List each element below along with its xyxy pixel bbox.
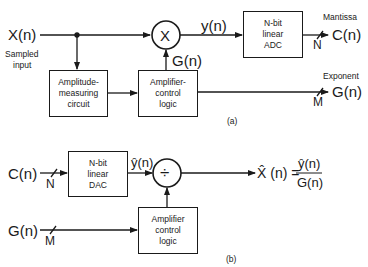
c-input-label: C(n) — [8, 166, 37, 181]
amplifier-control-logic-box-b: Amplifiercontrollogic — [138, 207, 198, 254]
box-line: ADC — [263, 40, 284, 51]
exponent-output: G(n) — [332, 84, 362, 99]
amplitude-measuring-circuit-box: Amplitude-measuringcircuit — [49, 70, 108, 117]
box-line: Amplifier- — [150, 77, 186, 88]
c-bits: N — [46, 178, 55, 190]
input-label: input — [13, 61, 31, 70]
output-equation-lhs: X̂ (n) = — [257, 166, 299, 180]
caption-b: (b) — [226, 255, 236, 264]
mantissa-bits: N — [313, 39, 322, 51]
sampled-label: Sampled — [5, 50, 39, 59]
output-denominator: G(n) — [297, 176, 323, 189]
box-line: N-bit — [88, 158, 109, 169]
box-line: control — [150, 88, 186, 99]
adc-box: N-bitlinearADC — [243, 11, 303, 58]
caption-a: (a) — [227, 117, 237, 126]
g-input-label: G(n) — [8, 223, 38, 238]
yhat-label: ŷ(n) — [131, 156, 153, 169]
exponent-bits: M — [313, 96, 323, 108]
multiplier-symbol: X — [160, 28, 170, 43]
box-line: logic — [151, 236, 184, 247]
box-line: DAC — [88, 180, 109, 191]
box-line: measuring — [58, 88, 99, 99]
y-label: y(n) — [201, 18, 227, 33]
box-line: logic — [150, 99, 186, 110]
divider-symbol: ÷ — [160, 164, 169, 181]
amplifier-control-logic-box-a: Amplifier-controllogic — [138, 70, 198, 117]
g-bits: M — [45, 235, 55, 247]
gain-label: G(n) — [172, 53, 202, 68]
output-numerator: ŷ(n) — [298, 157, 320, 170]
mantissa-label: Mantissa — [323, 13, 357, 22]
exponent-label: Exponent — [323, 72, 359, 81]
box-line: Amplitude- — [58, 77, 99, 88]
box-line: circuit — [58, 99, 99, 110]
box-line: linear — [263, 29, 284, 40]
box-line: control — [151, 225, 184, 236]
box-line: linear — [88, 169, 109, 180]
box-line: Amplifier — [151, 214, 184, 225]
dac-box: N-bitlinearDAC — [68, 151, 128, 197]
box-line: N-bit — [263, 18, 284, 29]
input-label-x: X(n) — [8, 27, 36, 42]
mantissa-output: C(n) — [332, 27, 361, 42]
